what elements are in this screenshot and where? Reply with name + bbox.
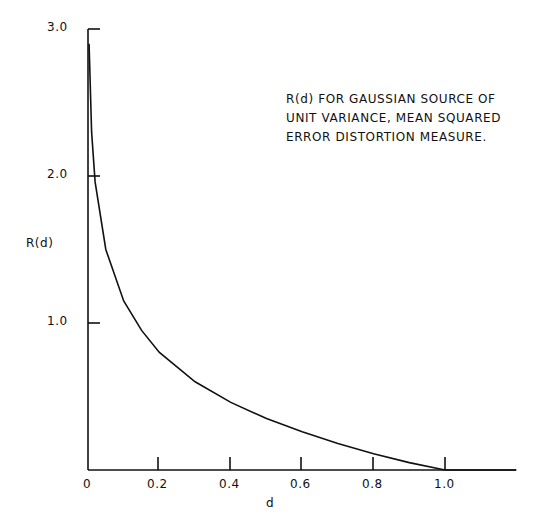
x-tick-1.0: 1.0 xyxy=(434,477,455,491)
y-tick-3: 3.0 xyxy=(47,20,68,34)
chart: 3.0 2.0 1.0 R(d) 0 0.2 0.4 0.6 0.8 1.0 d… xyxy=(0,0,536,528)
x-tick-0.6: 0.6 xyxy=(290,477,311,491)
x-tick-0.8: 0.8 xyxy=(362,477,383,491)
y-axis-label: R(d) xyxy=(26,236,53,250)
x-tick-0.4: 0.4 xyxy=(219,477,240,491)
x-axis-label: d xyxy=(266,496,274,510)
x-tick-0: 0 xyxy=(83,477,91,491)
annotation: R(d) FOR GAUSSIAN SOURCE OF UNIT VARIANC… xyxy=(286,90,501,147)
y-tick-1: 1.0 xyxy=(47,314,68,328)
x-tick-0.2: 0.2 xyxy=(147,477,168,491)
y-tick-2: 2.0 xyxy=(47,167,68,181)
plot-area xyxy=(0,0,536,528)
